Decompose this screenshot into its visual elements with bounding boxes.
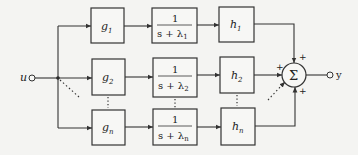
sum-sign-bottom: + bbox=[299, 86, 307, 96]
filter1-numerator: 1 bbox=[172, 13, 178, 24]
svg-text:1: 1 bbox=[172, 64, 178, 75]
sigma-symbol: Σ bbox=[289, 68, 298, 83]
sum-sign-top: + bbox=[299, 52, 307, 62]
block-diagram: u g1 1 s + λ1 h1 + g2 1 s + λ2 h2 + gn 1… bbox=[0, 0, 358, 155]
output-label: y bbox=[335, 69, 342, 80]
svg-text:1: 1 bbox=[172, 114, 178, 125]
input-terminal bbox=[29, 75, 35, 81]
input-label: u bbox=[20, 71, 27, 84]
output-terminal bbox=[327, 72, 333, 78]
more-branches-dots bbox=[60, 80, 79, 97]
